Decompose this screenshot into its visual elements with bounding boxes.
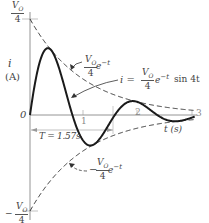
bottom-tick-sub: O xyxy=(23,206,28,213)
origin-label: 0 xyxy=(20,110,26,120)
lower-envelope-label-arrow xyxy=(71,165,87,171)
x-tick-label-1: 1 xyxy=(81,117,87,126)
damped-sine-plot xyxy=(0,0,209,223)
lower-envelope-label-arrowhead xyxy=(69,163,75,168)
upper-env-exp: −t xyxy=(101,59,110,67)
period-label: T = 1.57s xyxy=(39,132,80,141)
y-axis-label-unit: (A) xyxy=(5,72,20,82)
x-axis-label-text: t (s) xyxy=(164,124,182,134)
curve-label-suffix: sin 4t xyxy=(174,75,200,84)
bottom-tick-sign: − xyxy=(5,209,13,218)
curve-label-exp: e−t xyxy=(155,74,169,85)
top-tick-den: 4 xyxy=(15,14,21,24)
bottom-tick-den: 4 xyxy=(19,215,25,223)
upper-envelope-label-exp: e−t xyxy=(96,60,110,71)
curve-label-arrow xyxy=(73,80,118,97)
curve-den: 4 xyxy=(145,81,151,91)
x-tick-label-3: 3 xyxy=(196,109,202,118)
curve-sub: O xyxy=(149,72,154,79)
top-tick-label: VO 4 xyxy=(11,1,24,24)
y-axis-label-i: i xyxy=(8,58,12,69)
lower-env-den: 4 xyxy=(100,171,106,181)
period-arrowhead-left xyxy=(31,128,37,132)
curve-label-frac: VO 4 xyxy=(141,68,154,91)
lower-envelope-label-exp: e−t xyxy=(108,164,122,175)
lower-env-exp: −t xyxy=(113,163,122,171)
upper-env-den: 4 xyxy=(88,68,94,78)
x-axis-label: t (s) xyxy=(164,125,182,134)
top-tick-sub: O xyxy=(19,5,24,12)
upper-envelope xyxy=(30,19,195,110)
period-arrowhead-right xyxy=(107,128,113,132)
curve-exp: −t xyxy=(160,73,169,81)
x-tick-label-2: 2 xyxy=(135,108,141,117)
curve-label-prefix: i = xyxy=(120,75,135,85)
bottom-tick-label: VO 4 xyxy=(15,202,28,223)
